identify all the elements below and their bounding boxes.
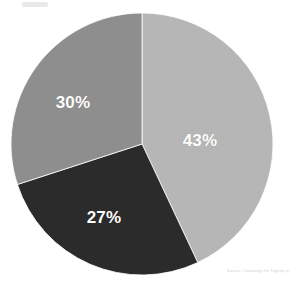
source-credit: Source: Campaign for Dignity in xyxy=(219,268,289,274)
pie-chart xyxy=(11,13,273,275)
pie-slice-label-43: 43% xyxy=(183,131,218,151)
pie-chart-svg xyxy=(11,13,273,275)
smudge-artifact xyxy=(22,2,48,7)
pie-slice-label-27: 27% xyxy=(87,208,122,228)
chart-canvas: 43% 27% 30% Source: Campaign for Dignity… xyxy=(0,0,291,293)
pie-slice-label-30: 30% xyxy=(56,93,91,113)
